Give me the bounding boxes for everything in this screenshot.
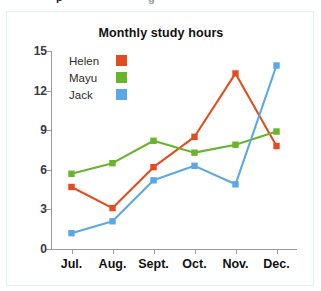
series-layer	[7, 12, 315, 287]
legend-item-mayu[interactable]: Mayu	[69, 69, 127, 86]
chart-card: Monthly study hours 03691215 Jul.Aug.Sep…	[6, 11, 314, 286]
data-point-marker	[68, 184, 74, 190]
data-point-marker	[232, 142, 238, 148]
data-point-marker	[273, 143, 279, 149]
legend-label: Helen	[69, 55, 111, 67]
data-point-marker	[68, 230, 74, 236]
data-point-marker	[68, 171, 74, 177]
data-point-marker	[109, 160, 115, 166]
data-point-marker	[232, 181, 238, 187]
legend-color-swatch	[116, 55, 127, 66]
chart-screenshot: p g Monthly study hours 03691215 Jul.Aug…	[0, 0, 321, 291]
data-point-marker	[109, 205, 115, 211]
data-point-marker	[150, 177, 156, 183]
legend-item-jack[interactable]: Jack	[69, 86, 127, 103]
data-point-marker	[109, 218, 115, 224]
legend-color-swatch	[116, 89, 127, 100]
cropped-text-right: g	[148, 0, 155, 4]
legend-item-helen[interactable]: Helen	[69, 52, 127, 69]
data-point-marker	[191, 163, 197, 169]
data-point-marker	[150, 164, 156, 170]
legend-label: Mayu	[69, 72, 111, 84]
data-point-marker	[273, 62, 279, 68]
data-point-marker	[150, 138, 156, 144]
cropped-text-left: p	[56, 0, 63, 3]
data-point-marker	[191, 134, 197, 140]
data-point-marker	[232, 70, 238, 76]
plot-area: 03691215 Jul.Aug.Sept.Oct.Nov.Dec. Helen…	[7, 12, 315, 287]
chart-legend: HelenMayuJack	[69, 52, 127, 103]
legend-label: Jack	[69, 89, 111, 101]
legend-color-swatch	[116, 72, 127, 83]
data-point-marker	[191, 149, 197, 155]
data-point-marker	[273, 128, 279, 134]
